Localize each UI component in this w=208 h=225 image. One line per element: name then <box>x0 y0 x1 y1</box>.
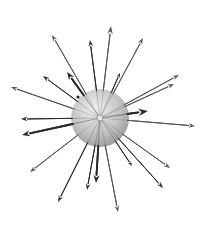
arrowhead-icon <box>89 40 94 47</box>
sphere-field-illustration <box>0 0 208 225</box>
field-dot <box>76 95 79 98</box>
arrowhead-icon <box>107 26 112 34</box>
arrow-shaft-outer <box>105 145 117 206</box>
arrow-shaft-outer <box>113 44 140 95</box>
arrow-shaft-outer <box>127 120 189 125</box>
arrow-shaft-outer <box>17 89 74 109</box>
field-dots <box>76 95 79 98</box>
arrow-shaft-outer <box>27 118 73 119</box>
field-diagram <box>0 0 208 225</box>
arrow-shaft-outer <box>125 87 169 107</box>
arrow-shaft-outer <box>30 124 74 134</box>
arrow-shaft-outer <box>48 80 78 102</box>
arrow-shaft-outer <box>91 46 97 91</box>
arrow-shaft-outer <box>35 134 79 168</box>
arrowhead-icon <box>115 205 120 212</box>
arrow-shaft-outer <box>88 145 95 184</box>
arrowhead-icon <box>43 76 50 82</box>
arrow-shaft-outer <box>55 41 86 95</box>
arrowhead-icon <box>21 117 27 122</box>
arrowhead-icon <box>163 162 170 168</box>
arrowhead-icon <box>52 35 57 42</box>
arrowhead-icon <box>128 161 132 166</box>
sphere-center <box>97 115 103 121</box>
arrow-shaft-outer <box>124 78 174 105</box>
arrowhead-icon <box>188 123 195 128</box>
arrows-front <box>17 34 189 206</box>
arrow-shaft-outer <box>96 145 98 175</box>
arrow-shaft-outer <box>61 142 88 196</box>
arrowhead-icon <box>86 183 91 190</box>
arrow-shaft-outer <box>103 34 110 91</box>
arrowhead-icon <box>172 75 179 80</box>
arrow-shaft-outer <box>115 140 129 162</box>
arrowhead-icon <box>138 38 143 45</box>
arrowhead-icon <box>93 175 99 183</box>
